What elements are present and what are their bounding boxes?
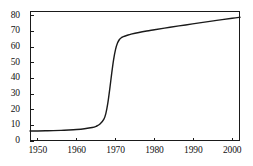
y-tick-label: 10 [11, 120, 20, 130]
x-tick-label: 1950 [28, 146, 47, 156]
y-tick-label: 80 [11, 11, 20, 21]
x-tick-label: 1960 [67, 146, 86, 156]
line-series-path [30, 17, 240, 131]
y-tick-label: 60 [11, 42, 20, 52]
chart-figure: 01020304050607080 1950196019701980199020… [0, 0, 253, 166]
y-tick-label: 70 [11, 26, 20, 36]
plot-area [30, 11, 240, 141]
y-tick-label: 20 [11, 105, 20, 115]
x-tick-label: 1970 [106, 146, 125, 156]
y-tick-label: 30 [11, 89, 20, 99]
x-tick-label: 2000 [223, 146, 242, 156]
line-series-svg [30, 11, 240, 141]
y-tick-label: 40 [11, 73, 20, 83]
y-tick-label: 0 [15, 136, 20, 146]
x-tick-label: 1980 [145, 146, 164, 156]
x-tick-label: 1990 [184, 146, 203, 156]
y-tick-label: 50 [11, 58, 20, 68]
